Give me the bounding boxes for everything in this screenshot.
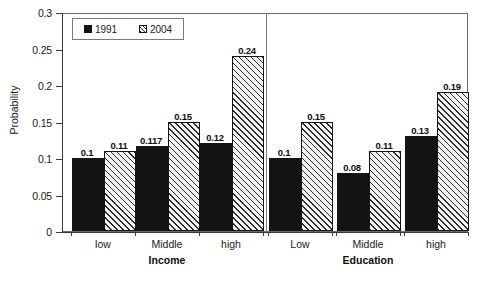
- x-axis-group-label: Education: [343, 254, 394, 266]
- y-axis-tick-label: 0.3: [0, 7, 52, 19]
- bar-1991: [136, 146, 168, 231]
- legend-entry-1991[interactable]: 1991: [84, 24, 117, 35]
- bar-value-label-2004: 0.15: [174, 111, 192, 122]
- bar-value-label-2004: 0.19: [443, 81, 461, 92]
- x-axis-category-label: Low: [290, 238, 309, 250]
- x-axis-tick: [468, 232, 469, 236]
- legend[interactable]: 1991 2004: [72, 18, 184, 40]
- x-axis-category-label: Middle: [353, 238, 384, 250]
- y-axis-line: [62, 13, 63, 233]
- y-axis-tick-label: 0.1: [0, 153, 52, 165]
- y-axis-tick-label: 0.05: [0, 190, 52, 202]
- x-axis-tick: [336, 232, 337, 236]
- plot-area: [62, 13, 468, 232]
- bar-1991: [405, 136, 437, 231]
- bar-value-label-2004: 0.24: [238, 45, 256, 56]
- x-axis-tick: [268, 232, 269, 236]
- x-axis-category-label: high: [426, 238, 446, 250]
- bar-2004: [369, 151, 401, 231]
- bar-value-label-1991: 0.1: [81, 147, 94, 158]
- x-axis-tick: [404, 232, 405, 236]
- bar-1991: [337, 173, 369, 231]
- x-axis-category-label: Middle: [152, 238, 183, 250]
- y-axis-tick-label: 0.25: [0, 44, 52, 56]
- bar-1991: [72, 158, 104, 231]
- bar-value-label-1991: 0.08: [343, 162, 361, 173]
- bar-2004: [437, 92, 469, 231]
- hatched-square-icon: [139, 25, 147, 33]
- x-axis-tick: [263, 232, 264, 236]
- legend-label: 2004: [150, 24, 172, 35]
- y-axis-tick-label: 0.2: [0, 80, 52, 92]
- x-axis-tick: [332, 232, 333, 236]
- bar-value-label-2004: 0.11: [110, 140, 127, 151]
- bar-2004: [168, 122, 200, 232]
- bar-2004: [301, 122, 333, 232]
- x-axis-group-label: Income: [149, 254, 186, 266]
- bar-2004: [104, 151, 136, 231]
- x-axis-tick: [199, 232, 200, 236]
- solid-black-square-icon: [84, 25, 92, 33]
- x-axis-tick: [135, 232, 136, 236]
- bar-value-label-1991: 0.13: [411, 125, 429, 136]
- y-axis-tick-label: 0.15: [0, 117, 52, 129]
- x-axis-line: [62, 232, 469, 233]
- bar-value-label-1991: 0.117: [140, 135, 162, 146]
- legend-label: 1991: [95, 24, 117, 35]
- bar-value-label-2004: 0.15: [307, 111, 325, 122]
- y-axis-tick-label: 0: [0, 226, 52, 238]
- bar-1991: [269, 158, 301, 231]
- x-axis-category-label: low: [95, 238, 111, 250]
- legend-entry-2004[interactable]: 2004: [139, 24, 172, 35]
- bar-value-label-1991: 0.1: [278, 147, 291, 158]
- group-separator-line: [266, 13, 267, 232]
- bar-2004: [232, 56, 264, 231]
- bar-value-label-2004: 0.11: [375, 140, 392, 151]
- x-axis-tick: [400, 232, 401, 236]
- bar-1991: [200, 143, 232, 231]
- x-axis-category-label: high: [221, 238, 241, 250]
- chart-figure: Probability 00.050.10.150.20.250.3 lowMi…: [0, 0, 487, 288]
- y-axis-title: Probability: [8, 65, 20, 155]
- x-axis-tick: [71, 232, 72, 236]
- bar-value-label-1991: 0.12: [206, 132, 224, 143]
